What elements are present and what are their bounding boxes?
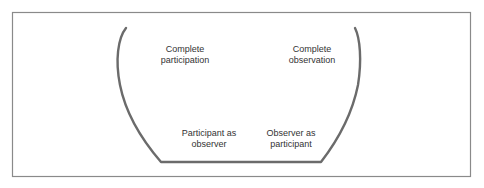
role-label-line2: participant — [266, 139, 315, 150]
role-observer-as-participant: Observer as participant — [266, 128, 315, 150]
role-label-line2: observer — [182, 139, 237, 150]
role-complete-observation: Complete observation — [289, 44, 336, 66]
role-label-line1: Complete — [161, 44, 210, 55]
role-participant-as-observer: Participant as observer — [182, 128, 237, 150]
diagram-svg — [0, 0, 484, 188]
role-label-line1: Observer as — [266, 128, 315, 139]
role-label-line2: participation — [161, 55, 210, 66]
role-label-line1: Participant as — [182, 128, 237, 139]
role-complete-participation: Complete participation — [161, 44, 210, 66]
diagram-frame — [13, 13, 471, 177]
role-label-line1: Complete — [289, 44, 336, 55]
role-label-line2: observation — [289, 55, 336, 66]
